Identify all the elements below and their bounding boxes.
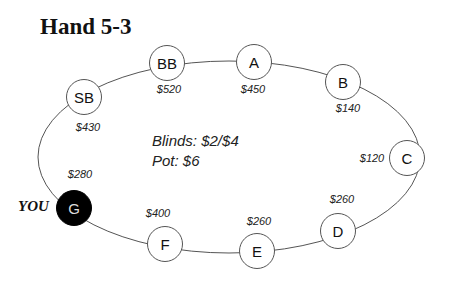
seat-label: B [338, 74, 348, 91]
stack-a: $450 [241, 83, 265, 95]
pot-text: Pot: $6 [152, 152, 200, 169]
poker-table-diagram: Hand 5-3 Blinds: $2/$4 Pot: $6 SB BB A B… [0, 0, 449, 286]
stack-d: $260 [330, 193, 354, 205]
hero-label: YOU [18, 198, 49, 215]
seat-label: G [68, 200, 80, 217]
seat-f: F [147, 226, 183, 262]
seat-label: F [160, 236, 169, 253]
stack-e: $260 [247, 215, 271, 227]
seat-b: B [325, 64, 361, 100]
seat-label: SB [74, 89, 94, 106]
seat-d: D [320, 213, 356, 249]
seat-label: E [252, 243, 262, 260]
seat-label: A [249, 54, 259, 71]
stack-b: $140 [336, 102, 360, 114]
stack-sb: $430 [76, 121, 100, 133]
blinds-text: Blinds: $2/$4 [152, 132, 239, 149]
seat-c: C [389, 140, 425, 176]
hand-title: Hand 5-3 [40, 14, 131, 40]
seat-label: D [333, 223, 344, 240]
seat-e: E [239, 233, 275, 269]
seat-label: C [402, 150, 413, 167]
stack-g: $280 [68, 168, 92, 180]
seat-a: A [236, 44, 272, 80]
stack-c: $120 [360, 152, 384, 164]
stack-bb: $520 [157, 83, 181, 95]
seat-label: BB [157, 55, 177, 72]
stack-f: $400 [146, 207, 170, 219]
seat-g-hero: G [56, 190, 92, 226]
seat-bb: BB [149, 45, 185, 81]
seat-sb: SB [66, 79, 102, 115]
